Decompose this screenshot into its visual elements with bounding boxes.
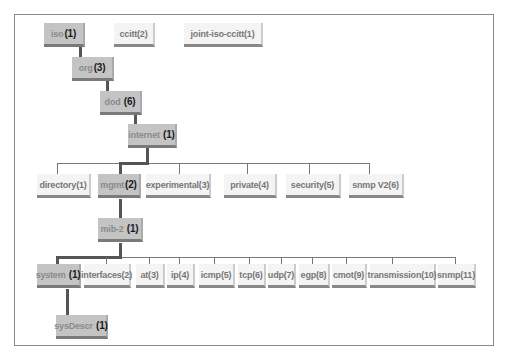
- node-number: (1): [127, 223, 139, 234]
- drop-experimental: [179, 163, 180, 174]
- node-label: transmission(10): [368, 270, 437, 280]
- node-snmp[interactable]: snmp(11): [438, 264, 476, 288]
- node-mib-2[interactable]: mib-2 (1): [98, 218, 143, 242]
- connector-to-mgmt-h: [119, 162, 149, 165]
- node-label: interfaces(2): [81, 270, 132, 280]
- node-label: tcp(6): [239, 270, 262, 280]
- node-label: dod: [105, 97, 123, 107]
- node-snmp-v2[interactable]: snmp V2(6): [349, 174, 404, 198]
- node-label: egp(8): [301, 270, 327, 280]
- node-label: ccitt(2): [120, 29, 148, 39]
- node-label: directory(1): [39, 180, 86, 190]
- node-label: snmp V2(6): [352, 180, 399, 190]
- node-number: (1): [96, 320, 108, 331]
- node-interfaces[interactable]: interfaces(2): [84, 264, 131, 288]
- node-ip[interactable]: ip(4): [167, 264, 195, 288]
- node-number: (6): [124, 96, 136, 107]
- node-label: ip(4): [171, 270, 189, 280]
- node-internet[interactable]: internet (1): [128, 124, 177, 148]
- node-org[interactable]: org(3): [72, 57, 114, 81]
- connector-system-sysdescr: [66, 289, 69, 316]
- node-label: joint-iso-ccitt(1): [191, 29, 255, 39]
- drop-snmpv2: [369, 163, 370, 174]
- drop-security: [309, 163, 310, 174]
- node-label: private(4): [230, 180, 269, 190]
- node-transmission[interactable]: transmission(10): [370, 264, 436, 288]
- node-cmot[interactable]: cmot(9): [332, 264, 367, 288]
- node-label: snmp(11): [437, 270, 475, 280]
- node-udp[interactable]: udp(7): [268, 264, 296, 288]
- node-label: cmot(9): [333, 270, 364, 280]
- node-directory[interactable]: directory(1): [37, 174, 91, 198]
- connector-mgmt-mib2: [119, 199, 122, 219]
- node-ccitt[interactable]: ccitt(2): [114, 23, 155, 47]
- node-icmp[interactable]: icmp(5): [199, 264, 235, 288]
- node-experimental[interactable]: experimental(3): [146, 174, 211, 198]
- drop-directory: [57, 163, 58, 174]
- node-label: security(5): [291, 180, 334, 190]
- node-label: internet: [128, 130, 162, 140]
- node-label: udp(7): [268, 270, 294, 280]
- drop-private: [247, 163, 248, 174]
- node-label: sysDescr: [54, 321, 95, 331]
- node-dod[interactable]: dod (6): [100, 91, 142, 115]
- node-number: (2): [125, 179, 137, 190]
- node-at[interactable]: at(3): [136, 264, 165, 288]
- node-number: (1): [69, 269, 81, 280]
- node-private[interactable]: private(4): [224, 174, 277, 198]
- node-label: at(3): [140, 270, 158, 280]
- connector-to-system-h: [56, 256, 122, 259]
- node-number: (3): [94, 62, 106, 73]
- node-tcp[interactable]: tcp(6): [238, 264, 266, 288]
- node-iso[interactable]: iso(1): [44, 23, 85, 47]
- drop-mgmt: [119, 162, 122, 174]
- node-joint-iso-ccitt[interactable]: joint-iso-ccitt(1): [184, 23, 263, 47]
- node-label: experimental(3): [146, 180, 210, 190]
- node-label: org: [79, 63, 93, 73]
- node-number: (1): [64, 28, 76, 39]
- node-label: iso: [51, 29, 63, 39]
- node-number: (1): [163, 129, 175, 140]
- node-egp[interactable]: egp(8): [299, 264, 330, 288]
- node-security[interactable]: security(5): [286, 174, 341, 198]
- node-label: mgmt: [100, 180, 124, 190]
- node-label: system: [36, 270, 68, 280]
- node-mgmt[interactable]: mgmt(2): [98, 174, 141, 198]
- node-label: mib-2: [101, 224, 126, 234]
- node-sysdescr[interactable]: sysDescr (1): [56, 315, 108, 339]
- internet-children-bar: [57, 163, 370, 164]
- node-label: icmp(5): [201, 270, 232, 280]
- node-system[interactable]: system (1): [37, 264, 81, 288]
